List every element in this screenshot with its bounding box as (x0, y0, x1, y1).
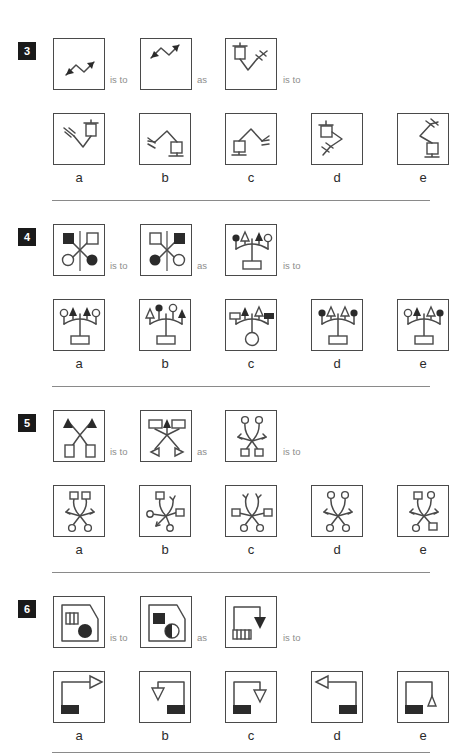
spider-icon-c (226, 486, 278, 538)
puzzle-6-option-d[interactable] (311, 671, 363, 723)
puzzle-5-stem-box-1[interactable] (53, 410, 105, 462)
puzzle-6-option-c[interactable] (225, 671, 277, 723)
puzzle-6-option-label-e: e (397, 728, 449, 743)
puzzle-3-option-b[interactable] (139, 113, 191, 165)
puzzle-5-option-label-d: d (311, 542, 363, 557)
candelabra-icon-e (398, 300, 450, 352)
puzzle-4-stem-box-1[interactable] (53, 224, 105, 276)
puzzle-4-stem-box-3[interactable] (225, 224, 277, 276)
puzzle-6-option-label-c: c (225, 728, 277, 743)
puzzle-3-option-label-c: c (225, 170, 277, 185)
puzzle-5: 5 is to as (0, 372, 459, 562)
bracket-arrow-down-right-icon-c (226, 672, 278, 724)
connector-is-to-2: is to (283, 74, 300, 85)
puzzle-5-option-label-c: c (225, 542, 277, 557)
puzzle-3-option-label-b: b (139, 170, 191, 185)
puzzle-4-stem-box-2[interactable] (140, 224, 192, 276)
puzzle-5-option-d[interactable] (311, 485, 363, 537)
cross-markers-icon-1 (54, 225, 106, 277)
puzzle-4-option-label-a: a (53, 356, 105, 371)
connector-as: as (197, 260, 207, 271)
puzzle-number-badge: 4 (18, 228, 36, 246)
puzzle-4-option-a[interactable] (53, 299, 105, 351)
candelabra-icon-a (54, 300, 106, 352)
puzzle-3-stem-box-2[interactable] (140, 38, 192, 90)
puzzle-6-separator (52, 752, 430, 753)
puzzle-6-option-a[interactable] (53, 671, 105, 723)
crossed-arrows-icon-2 (141, 411, 193, 463)
puzzle-3-stem-box-1[interactable] (53, 38, 105, 90)
puzzle-3-option-e[interactable] (397, 113, 449, 165)
candelabra-icon-d (312, 300, 364, 352)
connector-as: as (197, 446, 207, 457)
puzzle-number-badge: 5 (18, 414, 36, 432)
bracket-arrow-left-icon-d (312, 672, 364, 724)
puzzle-4-option-label-b: b (139, 356, 191, 371)
connector-is-to-2: is to (283, 446, 300, 457)
spider-icon-d (312, 486, 364, 538)
puzzle-4-option-c[interactable] (225, 299, 277, 351)
puzzle-5-option-a[interactable] (53, 485, 105, 537)
robot-arm-box-top-fork-bottom-icon (312, 114, 364, 166)
puzzle-4-option-label-c: c (225, 356, 277, 371)
puzzle-number-badge: 6 (18, 600, 36, 618)
zigzag-arrow-upperright-icon (141, 39, 193, 91)
puzzle-4: 4 is to as (0, 186, 459, 376)
candelabra-icon-c (226, 300, 278, 352)
robot-arm-box-topleft-icon (226, 39, 278, 91)
connector-is-to: is to (110, 74, 127, 85)
test-page: 3 is to as is to (0, 0, 459, 755)
puzzle-5-stem-box-2[interactable] (140, 410, 192, 462)
puzzle-3-option-d[interactable] (311, 113, 363, 165)
puzzle-3-stem-box-3[interactable] (225, 38, 277, 90)
puzzle-5-option-b[interactable] (139, 485, 191, 537)
puzzle-3: 3 is to as is to (0, 0, 459, 190)
puzzle-5-option-label-e: e (397, 542, 449, 557)
puzzle-4-option-label-d: d (311, 356, 363, 371)
puzzle-5-option-label-a: a (53, 542, 105, 557)
bracket-arrow-down-left-icon-b (140, 672, 192, 724)
puzzle-6-option-e[interactable] (397, 671, 449, 723)
robot-arm-fork-topright-icon (398, 114, 450, 166)
connector-is-to: is to (110, 446, 127, 457)
puzzle-5-option-label-b: b (139, 542, 191, 557)
puzzle-6-option-label-d: d (311, 728, 363, 743)
puzzle-6-option-label-b: b (139, 728, 191, 743)
connector-as: as (197, 74, 207, 85)
puzzle-4-option-d[interactable] (311, 299, 363, 351)
robot-arm-fork-left-icon (54, 114, 106, 166)
zigzag-arrow-lowerleft-icon (54, 39, 106, 91)
robot-arm-box-bottomleft-icon (226, 114, 278, 166)
spider-icon-b (140, 486, 192, 538)
puzzle-6-option-b[interactable] (139, 671, 191, 723)
puzzle-5-option-c[interactable] (225, 485, 277, 537)
connector-is-to: is to (110, 632, 127, 643)
connector-as: as (197, 632, 207, 643)
connector-is-to: is to (110, 260, 127, 271)
bracket-arrow-right-icon-a (54, 672, 106, 724)
puzzle-4-option-b[interactable] (139, 299, 191, 351)
puzzle-6-stem-box-2[interactable] (140, 596, 192, 648)
spider-icon-e (398, 486, 450, 538)
house-shape-icon-2 (141, 597, 193, 649)
robot-arm-fork-left-low-icon (140, 114, 192, 166)
house-shape-icon-1 (54, 597, 106, 649)
puzzle-3-option-c[interactable] (225, 113, 277, 165)
puzzle-3-option-label-e: e (397, 170, 449, 185)
puzzle-4-option-e[interactable] (397, 299, 449, 351)
puzzle-6-stem-box-3[interactable] (225, 596, 277, 648)
puzzle-5-stem-box-3[interactable] (225, 410, 277, 462)
puzzle-6-option-label-a: a (53, 728, 105, 743)
puzzle-6: 6 is to as is to (0, 558, 459, 753)
connector-is-to-2: is to (283, 632, 300, 643)
spider-icon-stem (226, 411, 278, 463)
puzzle-4-option-label-e: e (397, 356, 449, 371)
puzzle-3-option-a[interactable] (53, 113, 105, 165)
cross-markers-icon-2 (141, 225, 193, 277)
bracket-arrow-up-icon-e (398, 672, 450, 724)
puzzle-6-stem-box-1[interactable] (53, 596, 105, 648)
puzzle-5-option-e[interactable] (397, 485, 449, 537)
candelabra-icon-stem (226, 225, 278, 277)
crossed-arrows-icon-1 (54, 411, 106, 463)
spider-icon-a (54, 486, 106, 538)
